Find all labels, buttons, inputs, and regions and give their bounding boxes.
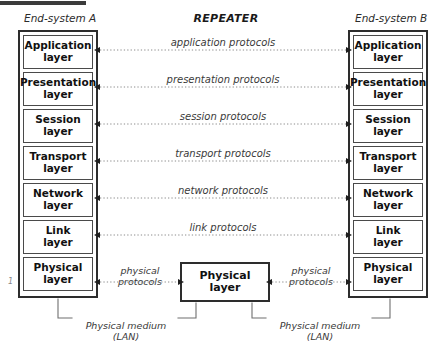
layer-label-line2: layer bbox=[373, 89, 403, 101]
layer-box-network-b: Network layer bbox=[353, 183, 423, 217]
physical-medium-label-left: Physical medium (LAN) bbox=[74, 320, 178, 343]
layer-label-line2: layer bbox=[373, 274, 403, 286]
physical-protocol-line2: protocols bbox=[277, 276, 345, 287]
layer-box-session-b: Session layer bbox=[353, 109, 423, 143]
layer-label-line2: layer bbox=[373, 200, 403, 212]
layer-label-line2: layer bbox=[373, 163, 403, 175]
physical-protocol-line1: physical bbox=[106, 265, 174, 276]
layer-box-physical-b: Physical layer bbox=[353, 257, 423, 291]
end-system-a-caption: End-system A bbox=[24, 12, 96, 24]
layer-label-line2: layer bbox=[43, 163, 73, 175]
protocol-label-network: network protocols bbox=[150, 185, 296, 196]
medium-line2: (LAN) bbox=[268, 331, 372, 342]
protocol-label-session: session protocols bbox=[150, 111, 296, 122]
layer-label-line2: layer bbox=[373, 237, 403, 249]
medium-line1: Physical medium bbox=[74, 320, 178, 331]
layer-box-session-a: Session layer bbox=[23, 109, 93, 143]
layer-box-presentation-a: Presentation layer bbox=[23, 72, 93, 106]
physical-protocol-label-left: physical protocols bbox=[106, 265, 174, 288]
layer-label-line2: layer bbox=[373, 52, 403, 64]
physical-protocol-line2: protocols bbox=[106, 276, 174, 287]
layer-label-line2: layer bbox=[43, 274, 73, 286]
end-system-b-caption: End-system B bbox=[355, 12, 427, 24]
protocol-label-presentation: presentation protocols bbox=[150, 74, 296, 85]
layer-box-transport-b: Transport layer bbox=[353, 146, 423, 180]
layer-box-application-a: Application layer bbox=[23, 35, 93, 69]
layer-box-link-b: Link layer bbox=[353, 220, 423, 254]
layer-label-line2: layer bbox=[210, 282, 241, 294]
protocol-label-transport: transport protocols bbox=[150, 148, 296, 159]
layer-box-transport-a: Transport layer bbox=[23, 146, 93, 180]
layer-label-line2: layer bbox=[43, 89, 73, 101]
physical-medium-label-right: Physical medium (LAN) bbox=[268, 320, 372, 343]
repeater-title: REPEATER bbox=[176, 12, 276, 25]
layer-label-line2: layer bbox=[43, 200, 73, 212]
layer-box-network-a: Network layer bbox=[23, 183, 93, 217]
medium-connector-right-b bbox=[372, 299, 390, 318]
medium-connector-right-repeater bbox=[252, 303, 266, 318]
medium-line2: (LAN) bbox=[74, 331, 178, 342]
layer-box-physical-a: Physical layer bbox=[23, 257, 93, 291]
end-system-a-stack: Application layer Presentation layer Ses… bbox=[18, 30, 98, 298]
top-rule-decoration bbox=[0, 1, 86, 5]
physical-protocol-line1: physical bbox=[277, 265, 345, 276]
layer-label-line2: layer bbox=[43, 237, 73, 249]
medium-connector-left-a bbox=[58, 299, 72, 318]
medium-connector-left-repeater bbox=[178, 303, 196, 318]
physical-protocol-label-right: physical protocols bbox=[277, 265, 345, 288]
repeater-physical-layer-box: Physical layer bbox=[180, 262, 270, 302]
layer-label-line2: layer bbox=[373, 126, 403, 138]
layer-label-line2: layer bbox=[43, 126, 73, 138]
osi-repeater-diagram: End-system A End-system B REPEATER 1 App… bbox=[0, 0, 443, 356]
protocol-label-application: application protocols bbox=[150, 37, 296, 48]
left-margin-mark: 1 bbox=[8, 277, 13, 286]
layer-box-application-b: Application layer bbox=[353, 35, 423, 69]
protocol-label-link: link protocols bbox=[150, 222, 296, 233]
end-system-b-stack: Application layer Presentation layer Ses… bbox=[348, 30, 428, 298]
layer-box-presentation-b: Presentation layer bbox=[353, 72, 423, 106]
layer-label-line2: layer bbox=[43, 52, 73, 64]
medium-line1: Physical medium bbox=[268, 320, 372, 331]
layer-box-link-a: Link layer bbox=[23, 220, 93, 254]
